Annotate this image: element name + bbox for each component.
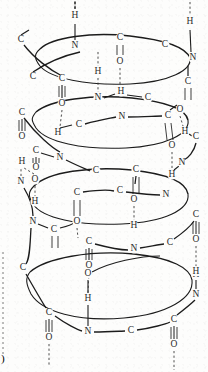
bond-c19-n18 bbox=[85, 117, 116, 124]
atom-label-n: N bbox=[131, 243, 138, 253]
helix-diagram-canvas: HNCOCHNCHCCCONHCCNCCOHOHCCNHOONCCHNOCCNH… bbox=[0, 0, 208, 372]
atom-label-h: H bbox=[193, 266, 200, 276]
atom-label-o: O bbox=[85, 268, 92, 278]
atom-label-c: C bbox=[165, 110, 171, 120]
atom-label-c: C bbox=[193, 209, 199, 219]
atom-label-n: N bbox=[193, 289, 200, 299]
bond-h15-c16 bbox=[127, 95, 142, 97]
atom-label-h: H bbox=[118, 86, 125, 96]
atom-label-n: N bbox=[85, 326, 92, 336]
bond-h22-c19 bbox=[60, 125, 72, 128]
atom-label-n: N bbox=[18, 176, 25, 186]
alpha-helix-figure: HNCOCHNCHCCCONHCCNCCOHOHCCNHOONCCHNOCCNH… bbox=[0, 0, 208, 372]
atom-label-o: O bbox=[171, 339, 178, 349]
atom-label-c: C bbox=[19, 107, 25, 117]
bond-c37-c38 bbox=[83, 190, 114, 192]
atom-label-c: C bbox=[30, 71, 36, 81]
atom-label-c: C bbox=[59, 73, 65, 83]
atom-label-c: C bbox=[185, 76, 191, 86]
atom-label-o: O bbox=[59, 98, 66, 108]
atom-label-o: O bbox=[193, 234, 200, 244]
atom-label-c: C bbox=[76, 119, 82, 129]
coil-turn-4 bbox=[30, 253, 192, 280]
atom-label-n: N bbox=[57, 152, 64, 162]
bond-o54-coil bbox=[92, 256, 160, 272]
atom-label-o: O bbox=[177, 104, 184, 114]
atom-label-c: C bbox=[93, 165, 99, 175]
bond-c43-c44 bbox=[60, 223, 73, 228]
atom-label-n: N bbox=[190, 52, 197, 62]
atom-label-o: O bbox=[46, 332, 53, 342]
bond-n49-c50 bbox=[140, 244, 164, 248]
bond-n27-c32 bbox=[66, 160, 90, 171]
atom-label-c: C bbox=[171, 314, 177, 324]
bond-c60-c61 bbox=[137, 322, 170, 330]
atom-label-c: C bbox=[167, 237, 173, 247]
atom-label-h: H bbox=[32, 196, 39, 206]
atom-label-h: H bbox=[182, 126, 189, 136]
atom-label-o: O bbox=[74, 216, 81, 226]
atom-label-c: C bbox=[46, 307, 52, 317]
atom-label-c: C bbox=[117, 185, 123, 195]
atom-label-c: C bbox=[133, 164, 139, 174]
atom-label-h: H bbox=[169, 169, 176, 179]
helix-coils bbox=[27, 35, 192, 319]
atom-label-c: C bbox=[20, 262, 26, 272]
bond-c58-n59 bbox=[55, 316, 82, 331]
atom-label-o: O bbox=[19, 131, 26, 141]
bond-n42-c43 bbox=[38, 224, 48, 228]
page-marker: ) bbox=[1, 348, 5, 366]
atom-label-c: C bbox=[193, 131, 199, 141]
double-bond-strokes bbox=[19, 45, 199, 339]
atom-label-h: H bbox=[72, 10, 79, 20]
atom-label-h: H bbox=[131, 220, 138, 230]
bond-c48-n49 bbox=[95, 244, 128, 250]
dblbond-c20-o30b bbox=[171, 123, 173, 140]
bond-c26-n27 bbox=[41, 153, 54, 157]
atom-label-h: H bbox=[85, 293, 92, 303]
bond-n18-c20 bbox=[128, 116, 162, 117]
bond-c61-n57 bbox=[177, 300, 195, 315]
atom-label-c: C bbox=[162, 39, 168, 49]
atom-label-c: C bbox=[33, 145, 39, 155]
atom-label-n: N bbox=[119, 111, 126, 121]
atom-label-c: C bbox=[74, 187, 80, 197]
atom-label-o: O bbox=[32, 174, 39, 184]
atom-label-c: C bbox=[145, 92, 151, 102]
atom-label-h: H bbox=[19, 156, 26, 166]
atom-label-c: C bbox=[18, 34, 24, 44]
bond-h24-c25 bbox=[189, 134, 192, 136]
hbond-o13-h22 bbox=[60, 110, 62, 127]
atom-label-h: H bbox=[95, 66, 102, 76]
atom-label-h: H bbox=[55, 127, 62, 137]
bond-n7-h6 bbox=[190, 30, 191, 52]
atom-label-o: O bbox=[169, 140, 176, 150]
bond-c33-c38 bbox=[135, 176, 136, 184]
bond-n59-c60 bbox=[94, 331, 125, 332]
atom-label-c: C bbox=[86, 236, 92, 246]
atom-label-n: N bbox=[95, 92, 102, 102]
atom-label-n: N bbox=[163, 189, 170, 199]
atom-label-c: C bbox=[128, 325, 134, 335]
atom-label-h: H bbox=[187, 16, 194, 26]
atom-label-n: N bbox=[30, 216, 37, 226]
atom-label-n: N bbox=[179, 157, 186, 167]
atom-label-o: O bbox=[33, 162, 40, 172]
bond-c25-n31 bbox=[184, 143, 196, 160]
bond-c50-c45 bbox=[174, 221, 194, 239]
atom-label-n: N bbox=[72, 40, 79, 50]
hbond-o44-down bbox=[77, 228, 78, 238]
dblbond-c20-o30 bbox=[165, 123, 167, 140]
bond-n42-down bbox=[26, 228, 31, 264]
atom-label-c: C bbox=[117, 32, 123, 42]
hbond-o21-h24 bbox=[180, 116, 183, 126]
atom-label-c: C bbox=[51, 224, 57, 234]
atom-label-o: O bbox=[131, 194, 138, 204]
atom-label-o: O bbox=[117, 56, 124, 66]
